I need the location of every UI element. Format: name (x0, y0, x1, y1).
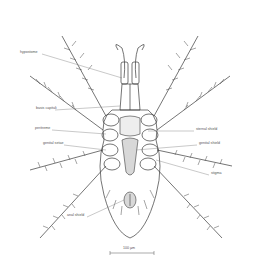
label-basis-capituli: basis capituli (36, 106, 57, 110)
label-anal-shield: anal shield (67, 213, 84, 217)
label-stigma: stigma (211, 171, 222, 175)
label-sternal-shield: sternal shield (196, 127, 217, 131)
label-hypostome: hypostome (20, 50, 38, 54)
mite-illustration (0, 0, 260, 272)
scale-bar-label: 100 µm (123, 246, 135, 250)
label-genital-setae: genital setae (43, 141, 63, 145)
mite-diagram: hypostome basis capituli peritreme genit… (0, 0, 260, 272)
label-genital-shield: genital shield (199, 141, 220, 145)
label-peritreme: peritreme (35, 126, 50, 130)
